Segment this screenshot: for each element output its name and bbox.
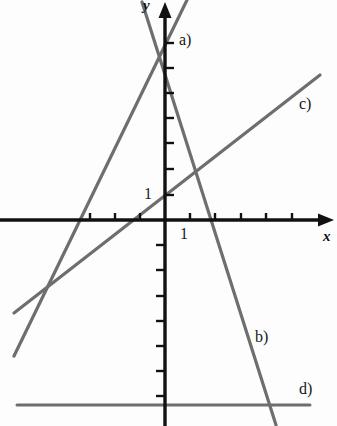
y-axis-label: y	[143, 0, 150, 13]
line-a-label: a)	[179, 32, 191, 48]
x-axis-label: x	[323, 229, 331, 244]
line-b-label: b)	[255, 329, 268, 345]
line-c-label: c)	[299, 96, 311, 112]
graph-figure: y x 1 1 a) b) c) d)	[0, 0, 337, 426]
line-b	[142, 2, 276, 425]
x-axis-tick-label-one: 1	[180, 226, 188, 242]
line-a	[14, 0, 187, 356]
x-axis-arrow-icon	[318, 214, 334, 227]
y-axis-arrow-icon	[159, 2, 172, 18]
y-axis-tick-label-one: 1	[144, 186, 152, 202]
line-d-label: d)	[299, 381, 312, 397]
plot-canvas	[0, 0, 337, 426]
